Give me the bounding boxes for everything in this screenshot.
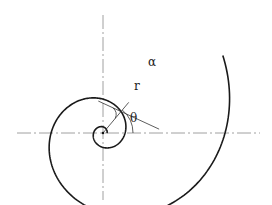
theta-label: θ xyxy=(130,112,137,124)
r-label: r xyxy=(134,80,140,92)
tangent-line xyxy=(98,101,159,129)
log-spiral-diagram xyxy=(0,0,272,205)
spiral-curve xyxy=(49,56,229,205)
alpha-label: α xyxy=(148,56,156,68)
center-point xyxy=(102,132,105,135)
